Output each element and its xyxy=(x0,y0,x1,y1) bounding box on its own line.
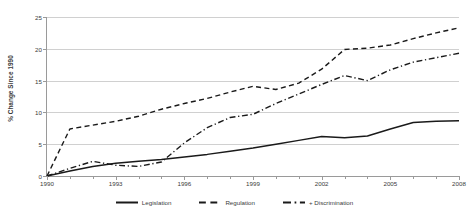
x-tick-mark-2003 xyxy=(345,176,346,179)
x-tick-mark-1998 xyxy=(230,176,231,179)
x-tick-mark-1994 xyxy=(139,176,140,179)
x-tick-label-1996: 1996 xyxy=(177,180,191,187)
solid-line-swatch xyxy=(116,199,138,206)
y-tick-label-20: 20 xyxy=(26,45,42,52)
x-tick-label-2005: 2005 xyxy=(383,180,397,187)
y-tick-mark-5 xyxy=(43,144,46,145)
x-tick-mark-2007 xyxy=(436,176,437,179)
legend-label: + Discrimination xyxy=(309,199,353,206)
x-tick-label-1993: 1993 xyxy=(109,180,123,187)
dashed-line-swatch xyxy=(199,199,221,206)
series-line-legislation xyxy=(47,121,459,176)
y-tick-label-15: 15 xyxy=(26,77,42,84)
y-axis-tick-labels: 0510152025 xyxy=(24,17,42,176)
dashdot-line-swatch xyxy=(283,199,305,206)
plot-area xyxy=(47,17,459,176)
y-axis-title: % Change Since 1990 xyxy=(0,0,20,176)
series-line-regulation xyxy=(47,28,459,176)
y-tick-mark-0 xyxy=(43,176,46,177)
y-tick-mark-25 xyxy=(43,17,46,18)
chart-legend: LegislationRegulation+ Discrimination xyxy=(0,194,469,210)
y-tick-mark-10 xyxy=(43,112,46,113)
y-tick-label-10: 10 xyxy=(26,109,42,116)
x-tick-mark-2006 xyxy=(413,176,414,179)
y-tick-mark-20 xyxy=(43,49,46,50)
x-tick-mark-1992 xyxy=(93,176,94,179)
x-tick-label-2002: 2002 xyxy=(315,180,329,187)
y-tick-label-0: 0 xyxy=(26,173,42,180)
x-tick-mark-2004 xyxy=(367,176,368,179)
y-tick-label-25: 25 xyxy=(26,14,42,21)
legend-item-regulation[interactable]: Regulation xyxy=(199,199,255,206)
legend-item-discrimination[interactable]: + Discrimination xyxy=(283,199,353,206)
x-tick-label-1990: 1990 xyxy=(40,180,54,187)
x-tick-label-1999: 1999 xyxy=(246,180,260,187)
line-chart: % Change Since 1990 0510152025 199019931… xyxy=(0,0,469,213)
x-tick-mark-2000 xyxy=(276,176,277,179)
x-tick-mark-1991 xyxy=(70,176,71,179)
legend-label: Regulation xyxy=(225,199,255,206)
legend-item-legislation[interactable]: Legislation xyxy=(116,199,172,206)
series-line-discrimination xyxy=(47,53,459,176)
y-tick-mark-15 xyxy=(43,81,46,82)
legend-label: Legislation xyxy=(142,199,172,206)
x-tick-mark-2001 xyxy=(299,176,300,179)
y-tick-label-5: 5 xyxy=(26,141,42,148)
series-overlay xyxy=(47,17,459,176)
x-tick-label-2008: 2008 xyxy=(452,180,466,187)
x-axis-tick-labels: 1990199319961999200220052008 xyxy=(0,180,469,192)
x-tick-mark-1997 xyxy=(207,176,208,179)
y-axis-title-label: % Change Since 1990 xyxy=(7,55,14,122)
x-tick-mark-1995 xyxy=(161,176,162,179)
